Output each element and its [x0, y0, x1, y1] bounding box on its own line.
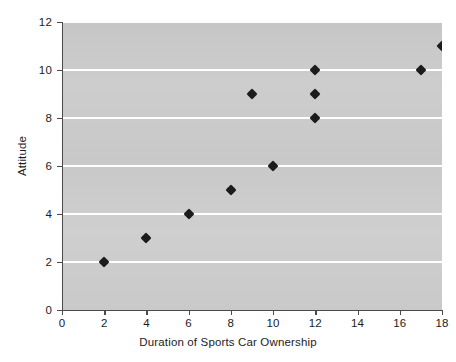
y-tick-label-12: 12	[39, 16, 52, 28]
y-tick-4	[57, 214, 62, 215]
gridline-y-6	[62, 165, 442, 167]
data-point	[225, 184, 236, 195]
scatter-plot-figure: 024681012141618 024681012 Duration of Sp…	[0, 0, 456, 362]
gridline-y-10	[62, 69, 442, 71]
y-tick-8	[57, 118, 62, 119]
x-tick-8	[231, 310, 232, 315]
x-tick-label-12: 12	[309, 317, 322, 329]
data-point	[310, 112, 321, 123]
x-tick-label-0: 0	[59, 317, 66, 329]
data-point	[99, 256, 110, 267]
data-point	[310, 88, 321, 99]
data-point	[415, 64, 426, 75]
y-axis-title: Attitude	[16, 116, 28, 196]
y-tick-label-10: 10	[39, 64, 52, 76]
x-tick-label-16: 16	[393, 317, 406, 329]
x-tick-label-18: 18	[435, 317, 448, 329]
x-tick-0	[62, 310, 63, 315]
x-axis-title: Duration of Sports Car Ownership	[0, 336, 456, 348]
x-tick-label-14: 14	[351, 317, 364, 329]
x-tick-2	[104, 310, 105, 315]
x-tick-18	[442, 310, 443, 315]
x-tick-10	[273, 310, 274, 315]
y-tick-label-4: 4	[45, 208, 52, 220]
x-tick-6	[189, 310, 190, 315]
y-tick-2	[57, 262, 62, 263]
x-tick-12	[315, 310, 316, 315]
y-tick-0	[57, 310, 62, 311]
x-tick-14	[358, 310, 359, 315]
gridline-y-8	[62, 117, 442, 119]
data-point	[183, 208, 194, 219]
gridline-y-12	[62, 22, 442, 23]
x-tick-label-4: 4	[143, 317, 150, 329]
y-tick-label-2: 2	[45, 256, 52, 268]
x-axis-line	[62, 310, 443, 311]
y-axis-line	[62, 22, 63, 311]
y-tick-12	[57, 22, 62, 23]
x-tick-label-6: 6	[185, 317, 192, 329]
x-tick-label-2: 2	[101, 317, 108, 329]
y-tick-label-0: 0	[45, 304, 52, 316]
gridline-y-4	[62, 213, 442, 215]
gridline-y-2	[62, 261, 442, 263]
y-tick-6	[57, 166, 62, 167]
data-point	[267, 160, 278, 171]
y-tick-10	[57, 70, 62, 71]
x-tick-label-8: 8	[228, 317, 235, 329]
data-point	[246, 88, 257, 99]
plot-area	[62, 22, 442, 310]
data-point	[436, 40, 442, 51]
data-point	[310, 64, 321, 75]
y-tick-label-8: 8	[45, 112, 52, 124]
data-point	[141, 232, 152, 243]
x-tick-16	[400, 310, 401, 315]
x-tick-4	[146, 310, 147, 315]
y-tick-label-6: 6	[45, 160, 52, 172]
x-tick-label-10: 10	[267, 317, 280, 329]
